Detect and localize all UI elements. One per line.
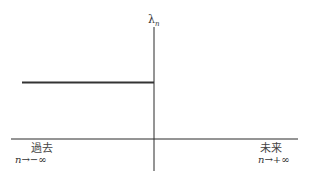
future-label: 未来 (260, 143, 282, 154)
y-axis-label-symbol: λ (148, 13, 155, 26)
y-axis-label: λn (148, 14, 160, 28)
past-limit-arrow: → (21, 154, 29, 165)
past-limit-value: −∞ (30, 154, 47, 165)
past-label: 過去 (31, 143, 53, 154)
future-limit: n→+∞ (258, 155, 290, 165)
y-axis-label-subscript: n (155, 20, 160, 28)
future-limit-arrow: → (264, 154, 272, 165)
past-limit: n→−∞ (15, 155, 47, 165)
future-limit-value: +∞ (273, 154, 290, 165)
